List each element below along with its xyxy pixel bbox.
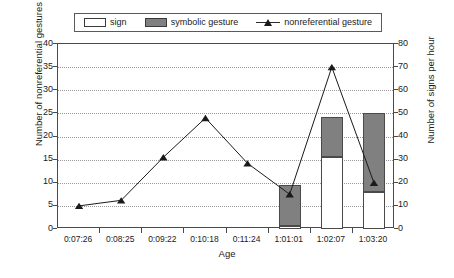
line-path (79, 67, 374, 206)
x-axis-title: Age (0, 249, 454, 259)
legend-item-symbolic-gesture: symbolic gesture (145, 18, 239, 27)
plot-area (57, 43, 394, 228)
line-series-nonreferential-gesture (58, 44, 395, 229)
y-axis-left-tick-label: 0 (29, 224, 53, 233)
y-axis-right-tick-label: 50 (398, 108, 424, 117)
line-marker-triangle-icon (201, 115, 209, 121)
legend-label-symbolic-gesture: symbolic gesture (171, 18, 239, 27)
y-axis-left-tick-label: 20 (29, 131, 53, 140)
y-axis-left-tick-label: 25 (29, 108, 53, 117)
chart-legend: sign symbolic gesture nonreferential ges… (74, 13, 382, 32)
y-axis-right-tick-label: 70 (398, 62, 424, 71)
legend-swatch-symbolic-gesture-icon (145, 18, 167, 27)
chart-figure: sign symbolic gesture nonreferential ges… (0, 0, 454, 278)
y-axis-left-tick-label: 5 (29, 200, 53, 209)
y-axis-left-tick-mark (53, 228, 57, 229)
y-axis-left-tick-label: 35 (29, 62, 53, 71)
legend-label-nonreferential-gesture: nonreferential gesture (284, 18, 372, 27)
y-axis-right-title: Number of signs per hour (426, 15, 436, 165)
y-axis-right-tick-label: 60 (398, 85, 424, 94)
y-axis-right-tick-label: 40 (398, 131, 424, 140)
line-marker-triangle-icon (328, 64, 336, 70)
y-axis-right-tick-label: 0 (398, 224, 424, 233)
line-marker-triangle-icon (370, 180, 378, 186)
legend-item-nonreferential-gesture: nonreferential gesture (256, 18, 372, 27)
y-axis-left-tick-label: 40 (29, 39, 53, 48)
y-axis-right-tick-label: 80 (398, 39, 424, 48)
y-axis-right-tick-label: 30 (398, 154, 424, 163)
legend-item-sign: sign (84, 18, 127, 27)
legend-swatch-nonreferential-gesture-icon (256, 18, 280, 27)
legend-swatch-sign-icon (84, 18, 106, 27)
y-axis-right-tick-label: 10 (398, 200, 424, 209)
legend-label-sign: sign (110, 18, 127, 27)
y-axis-left-tick-label: 15 (29, 154, 53, 163)
x-axis-tick-label: 1:03:20 (346, 235, 400, 244)
y-axis-left-tick-label: 10 (29, 177, 53, 186)
y-axis-right-tick-label: 20 (398, 177, 424, 186)
y-axis-left-title: Number of nonreferential gestures per ho… (34, 0, 44, 150)
line-marker-triangle-icon (243, 160, 251, 166)
y-axis-left-tick-label: 30 (29, 85, 53, 94)
